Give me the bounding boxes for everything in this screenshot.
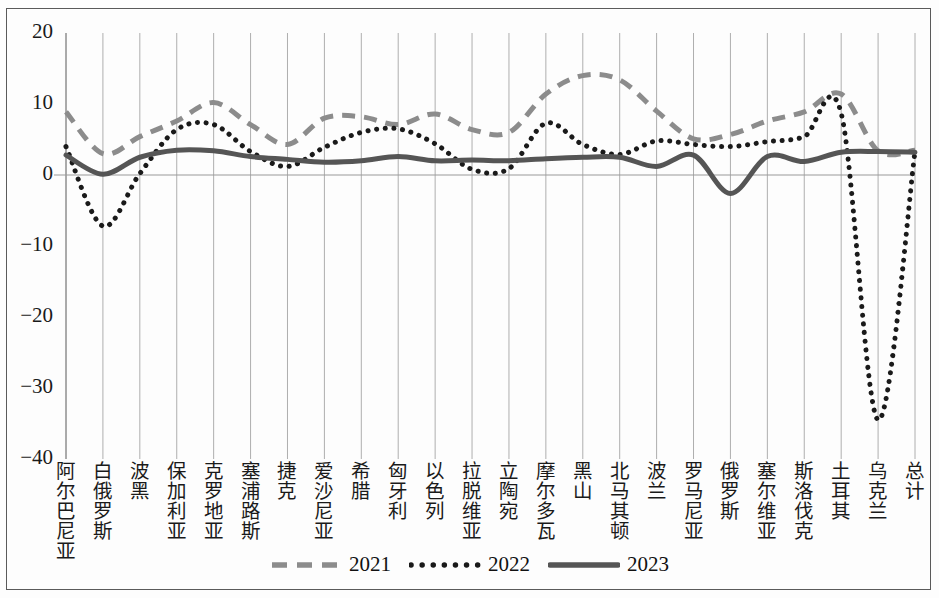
series-line-2023 — [66, 150, 915, 194]
x-tick-label-6: 捷克 — [275, 462, 299, 502]
y-tick-label: 10 — [5, 90, 53, 115]
x-tick-label-21: 土耳其 — [829, 462, 853, 522]
chart-legend: 202120222023 — [0, 552, 939, 577]
legend-swatch-dashed — [270, 557, 342, 573]
y-tick-label: −40 — [5, 445, 53, 470]
x-tick-label-13: 摩尔多瓦 — [534, 462, 558, 542]
x-tick-label-20: 斯洛伐克 — [792, 462, 816, 542]
x-tick-label-16: 波兰 — [645, 462, 669, 502]
legend-swatch-solid — [548, 557, 620, 573]
legend-label: 2022 — [488, 552, 530, 577]
x-tick-label-0: 阿尔巴尼亚 — [54, 462, 78, 561]
legend-item-2022: 2022 — [409, 552, 530, 577]
y-tick-label: −30 — [5, 374, 53, 399]
x-tick-label-12: 立陶宛 — [497, 462, 521, 522]
x-tick-label-22: 乌克兰 — [866, 462, 890, 522]
legend-item-2021: 2021 — [270, 552, 391, 577]
x-tick-label-4: 克罗地亚 — [202, 462, 226, 542]
x-tick-label-3: 保加利亚 — [165, 462, 189, 542]
x-tick-label-5: 塞浦路斯 — [239, 462, 263, 542]
legend-label: 2023 — [627, 552, 669, 577]
x-tick-label-8: 希腊 — [349, 462, 373, 502]
x-tick-label-9: 匈牙利 — [386, 462, 410, 522]
series-line-2021 — [66, 74, 915, 155]
legend-item-2023: 2023 — [548, 552, 669, 577]
x-tick-label-19: 塞尔维亚 — [755, 462, 779, 542]
y-tick-label: 20 — [5, 19, 53, 44]
x-tick-label-2: 波黑 — [128, 462, 152, 502]
x-tick-label-17: 罗马尼亚 — [682, 462, 706, 542]
y-tick-label: 0 — [5, 161, 53, 186]
x-tick-label-14: 黑山 — [571, 462, 595, 502]
x-tick-label-10: 以色列 — [423, 462, 447, 522]
y-tick-label: −10 — [5, 232, 53, 257]
x-tick-label-15: 北马其顿 — [608, 462, 632, 542]
chart-figure: 20100−10−20−30−40 阿尔巴尼亚白俄罗斯波黑保加利亚克罗地亚塞浦路… — [0, 0, 939, 598]
x-tick-label-18: 俄罗斯 — [718, 462, 742, 522]
legend-swatch-dotted — [409, 557, 481, 573]
x-tick-label-11: 拉脱维亚 — [460, 462, 484, 542]
series-line-2022 — [66, 96, 915, 420]
y-tick-label: −20 — [5, 303, 53, 328]
x-tick-label-23: 总计 — [903, 462, 927, 502]
x-tick-label-1: 白俄罗斯 — [91, 462, 115, 542]
legend-label: 2021 — [349, 552, 391, 577]
x-tick-label-7: 爱沙尼亚 — [312, 462, 336, 542]
